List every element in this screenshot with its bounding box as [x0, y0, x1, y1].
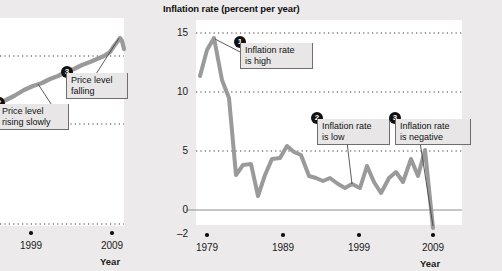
y-tick-label-15: 15: [160, 27, 188, 38]
callout-line-1: Inflation rate: [245, 45, 308, 56]
callout-inflation-negative: Inflation rate is negative: [395, 119, 471, 145]
callout-inflation-high: Inflation rate is high: [240, 43, 313, 69]
callout-line-1: Inflation rate: [400, 121, 466, 132]
x-tick-label-1999: 1999: [337, 242, 381, 253]
x-axis-title: Year: [420, 258, 440, 269]
x-tick-dot: [281, 233, 285, 237]
callout-line-2: is negative: [400, 132, 466, 143]
x-tick-dot: [357, 233, 361, 237]
y-tick-label-5: 5: [160, 145, 188, 156]
callout-inflation-low: Inflation rate is low: [317, 119, 390, 145]
y-tick-label-minus2: –2: [158, 228, 188, 239]
x-tick-label-2009: 2009: [411, 242, 455, 253]
x-tick-label-1979: 1979: [185, 242, 229, 253]
x-tick-dot: [205, 233, 209, 237]
inflation-rate-figure: Inflation rate (percent per year) 1 Infl…: [0, 0, 502, 271]
callout-line-2: is high: [245, 56, 308, 67]
x-tick-label-1989: 1989: [261, 242, 305, 253]
x-tick-dot: [431, 233, 435, 237]
callout-line-2: is low: [322, 132, 385, 143]
y-tick-label-10: 10: [160, 86, 188, 97]
y-tick-label-0: 0: [160, 204, 188, 215]
callout-line-1: Inflation rate: [322, 121, 385, 132]
figure-pair-page: 2 Price level rising slowly 3 Price leve…: [0, 0, 502, 271]
